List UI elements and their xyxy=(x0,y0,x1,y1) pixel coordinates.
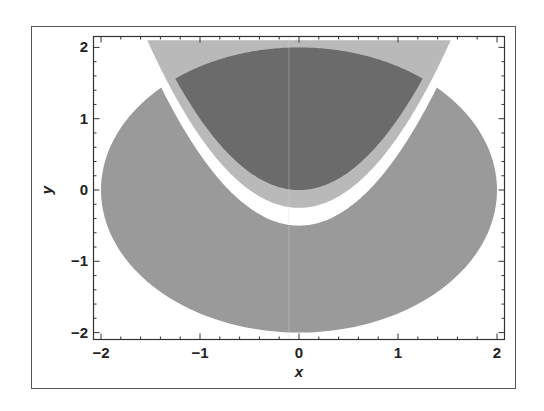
y-tick-label: 0 xyxy=(80,181,88,198)
y-tick-label: −2 xyxy=(71,324,88,341)
y-tick-label: 2 xyxy=(80,38,88,55)
y-axis-label: y xyxy=(38,185,55,195)
x-tick-label: −2 xyxy=(92,344,109,361)
x-tick-label: 0 xyxy=(295,344,303,361)
y-tick-label: −1 xyxy=(71,252,88,269)
x-tick-label: 2 xyxy=(493,344,501,361)
x-axis-label: x xyxy=(294,363,304,380)
chart: −2−1012−2−1012 x y xyxy=(0,0,544,411)
y-tick-label: 1 xyxy=(80,110,88,127)
x-tick-label: −1 xyxy=(191,344,208,361)
x-tick-label: 1 xyxy=(394,344,402,361)
